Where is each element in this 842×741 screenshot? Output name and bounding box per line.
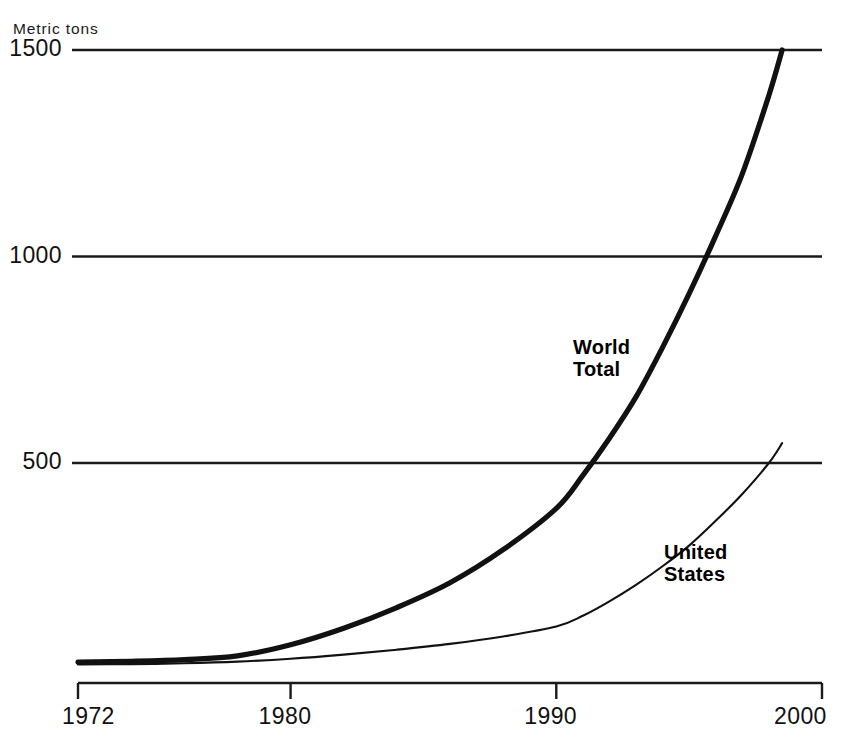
chart-figure: Metric tons 15001000500 1972198019902000… (0, 0, 842, 741)
x-tick-label-2000: 2000 (774, 703, 827, 730)
y-tick-label-1000: 1000 (9, 242, 62, 269)
series-label-united-states-line2: States (664, 563, 727, 585)
x-axis-group (78, 683, 822, 699)
series-label-world-total-line2: Total (573, 358, 630, 380)
x-tick-label-1980: 1980 (259, 703, 312, 730)
x-tick-label-1990: 1990 (524, 703, 577, 730)
y-tick-label-500: 500 (22, 448, 62, 475)
chart-canvas (0, 0, 842, 741)
y-tick-label-1500: 1500 (9, 35, 62, 62)
x-tick-label-1972: 1972 (62, 703, 115, 730)
series-label-world-total: World Total (573, 336, 630, 381)
series-label-united-states-line1: United (664, 541, 727, 563)
series-label-united-states: United States (664, 541, 727, 586)
series-label-world-total-line1: World (573, 336, 630, 358)
gridlines-group (72, 50, 822, 463)
